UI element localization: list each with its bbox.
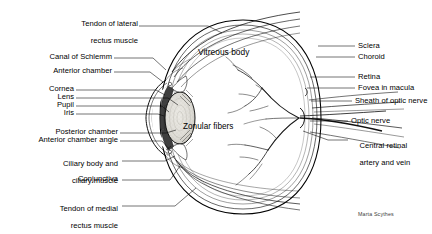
label-line-2: rectus muscle <box>71 221 118 230</box>
eye-anatomy-figure: Tendon of lateral rectus muscle Canal of… <box>0 0 432 234</box>
artist-credit: Marta Scythes <box>358 211 394 217</box>
label-tendon-lateral-rectus: Tendon of lateral rectus muscle <box>10 12 138 54</box>
label-optic-nerve: Optic nerve <box>351 117 390 125</box>
label-line-1: Central retinal <box>360 141 408 150</box>
label-vitreous-body: Vitreous body <box>198 48 249 56</box>
label-sheath-of-optic-nerve: Sheath of optic nerve <box>355 97 427 105</box>
label-zonular-fibers: Zonular fibers <box>183 123 233 131</box>
label-sclera: Sclera <box>358 42 380 50</box>
label-line-2: rectus muscle <box>91 36 138 45</box>
label-line-1: Ciliary body and <box>63 159 118 168</box>
label-fovea-in-macula: Fovea in macula <box>358 84 414 92</box>
label-line-1: Tendon of medial <box>60 204 118 213</box>
label-retina: Retina <box>358 73 380 81</box>
lens <box>165 92 195 144</box>
label-anterior-chamber: Anterior chamber <box>10 67 112 75</box>
label-tendon-medial-rectus: Tendon of medial rectus muscle <box>10 197 118 234</box>
label-line-1: Tendon of lateral <box>81 19 138 28</box>
label-iris: Iris <box>10 109 74 117</box>
label-choroid: Choroid <box>358 53 385 61</box>
label-conjunctiva: Conjunctiva <box>10 175 118 183</box>
label-anterior-chamber-angle: Anterior chamber angle <box>2 136 118 144</box>
label-canal-of-schlemm: Canal of Schlemm <box>10 53 112 61</box>
label-line-2: artery and vein <box>360 158 411 167</box>
label-central-retinal-vessels: Central retinal artery and vein <box>351 134 410 176</box>
